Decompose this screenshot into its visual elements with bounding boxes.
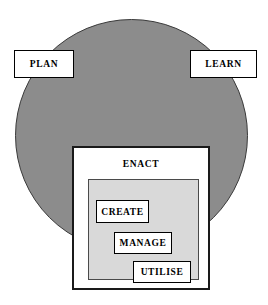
node-plan[interactable]: PLAN: [14, 50, 74, 78]
node-manage-label: MANAGE: [120, 238, 167, 248]
node-utilise-label: UTILISE: [141, 267, 184, 277]
node-enact-label: ENACT: [74, 159, 208, 169]
node-manage[interactable]: MANAGE: [114, 232, 172, 254]
node-learn-label: LEARN: [205, 59, 241, 69]
node-learn[interactable]: LEARN: [190, 50, 257, 78]
node-utilise[interactable]: UTILISE: [133, 261, 191, 283]
node-plan-label: PLAN: [30, 59, 58, 69]
diagram-canvas: PLAN LEARN ENACT CREATE MANAGE UTILISE: [0, 0, 268, 305]
node-create-label: CREATE: [101, 207, 144, 217]
node-create[interactable]: CREATE: [96, 200, 149, 223]
